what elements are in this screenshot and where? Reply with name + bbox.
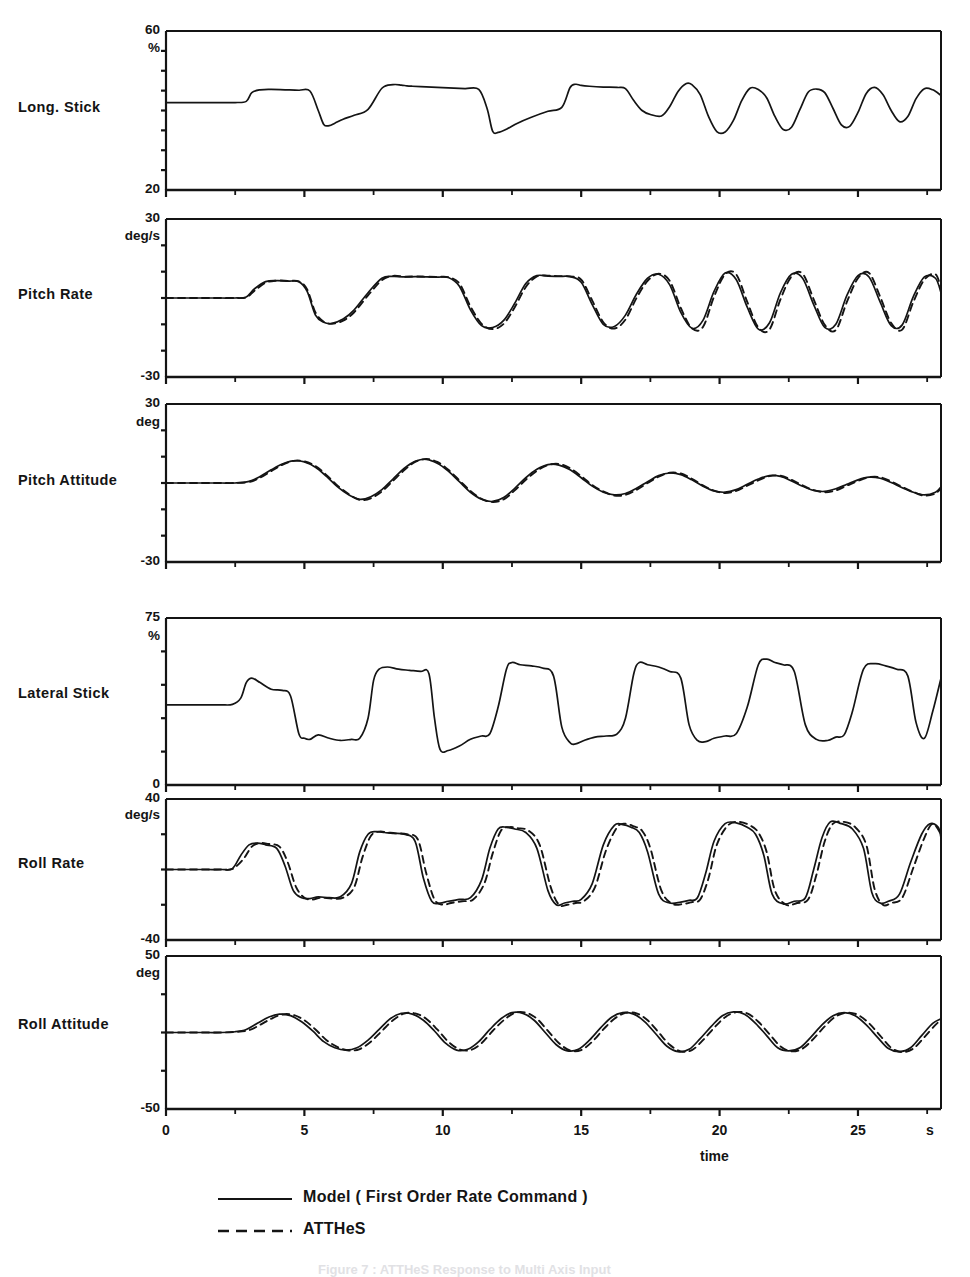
ytick-max-roll-attitude: 50: [104, 947, 160, 962]
ytick-max-pitch-rate: 30: [104, 210, 160, 225]
ytick-min-long-stick: 20: [104, 181, 160, 196]
ytick-max-pitch-attitude: 30: [104, 395, 160, 410]
figure-caption: Figure 7 : ATTHeS Response to Multi Axis…: [318, 1262, 611, 1277]
unit-label-long-stick: %: [104, 40, 160, 55]
panel-label-pitch-attitude: Pitch Attitude: [18, 472, 117, 488]
unit-label-pitch-rate: deg/s: [104, 228, 160, 243]
panel-lateral-stick: [161, 618, 941, 792]
panel-roll-rate: [161, 799, 941, 947]
xtick-label-25: 25: [828, 1122, 888, 1138]
unit-label-roll-attitude: deg: [104, 965, 160, 980]
ytick-max-long-stick: 60: [104, 22, 160, 37]
ytick-max-roll-rate: 40: [104, 790, 160, 805]
ytick-min-pitch-attitude: -30: [104, 553, 160, 568]
panel-roll-attitude: [161, 956, 941, 1116]
ytick-min-lateral-stick: 0: [104, 776, 160, 791]
ytick-min-roll-rate: -40: [104, 931, 160, 946]
pitch-attitude-series-atthes: [166, 459, 941, 502]
pitch-rate-series-atthes: [166, 271, 941, 332]
xtick-label-5: 5: [274, 1122, 334, 1138]
unit-label-lateral-stick: %: [104, 628, 160, 643]
legend-label-model: Model ( First Order Rate Command ): [303, 1188, 588, 1206]
panel-label-long-stick: Long. Stick: [18, 99, 101, 115]
long-stick-series-model: [166, 83, 941, 134]
panel-long-stick: [161, 31, 941, 197]
xtick-label-15: 15: [551, 1122, 611, 1138]
ytick-min-pitch-rate: -30: [104, 368, 160, 383]
ytick-min-roll-attitude: -50: [104, 1100, 160, 1115]
x-unit-label: s: [900, 1122, 960, 1138]
legend-label-attthes: ATTHeS: [303, 1220, 366, 1238]
panel-label-lateral-stick: Lateral Stick: [18, 685, 109, 701]
panel-label-roll-rate: Roll Rate: [18, 855, 84, 871]
roll-rate-series-atthes: [166, 821, 941, 906]
ytick-max-lateral-stick: 75: [104, 609, 160, 624]
lateral-stick-series-model: [166, 659, 941, 752]
roll-attitude-series-model: [166, 1012, 941, 1052]
xtick-label-20: 20: [690, 1122, 750, 1138]
panel-label-roll-attitude: Roll Attitude: [18, 1016, 109, 1032]
unit-label-roll-rate: deg/s: [104, 807, 160, 822]
x-axis-title: time: [700, 1148, 729, 1164]
unit-label-pitch-attitude: deg: [104, 414, 160, 429]
panel-pitch-rate: [161, 219, 941, 384]
xtick-label-0: 0: [136, 1122, 196, 1138]
roll-attitude-series-atthes: [166, 1012, 941, 1052]
xtick-label-10: 10: [413, 1122, 473, 1138]
panel-label-pitch-rate: Pitch Rate: [18, 286, 93, 302]
panel-pitch-attitude: [161, 404, 941, 569]
